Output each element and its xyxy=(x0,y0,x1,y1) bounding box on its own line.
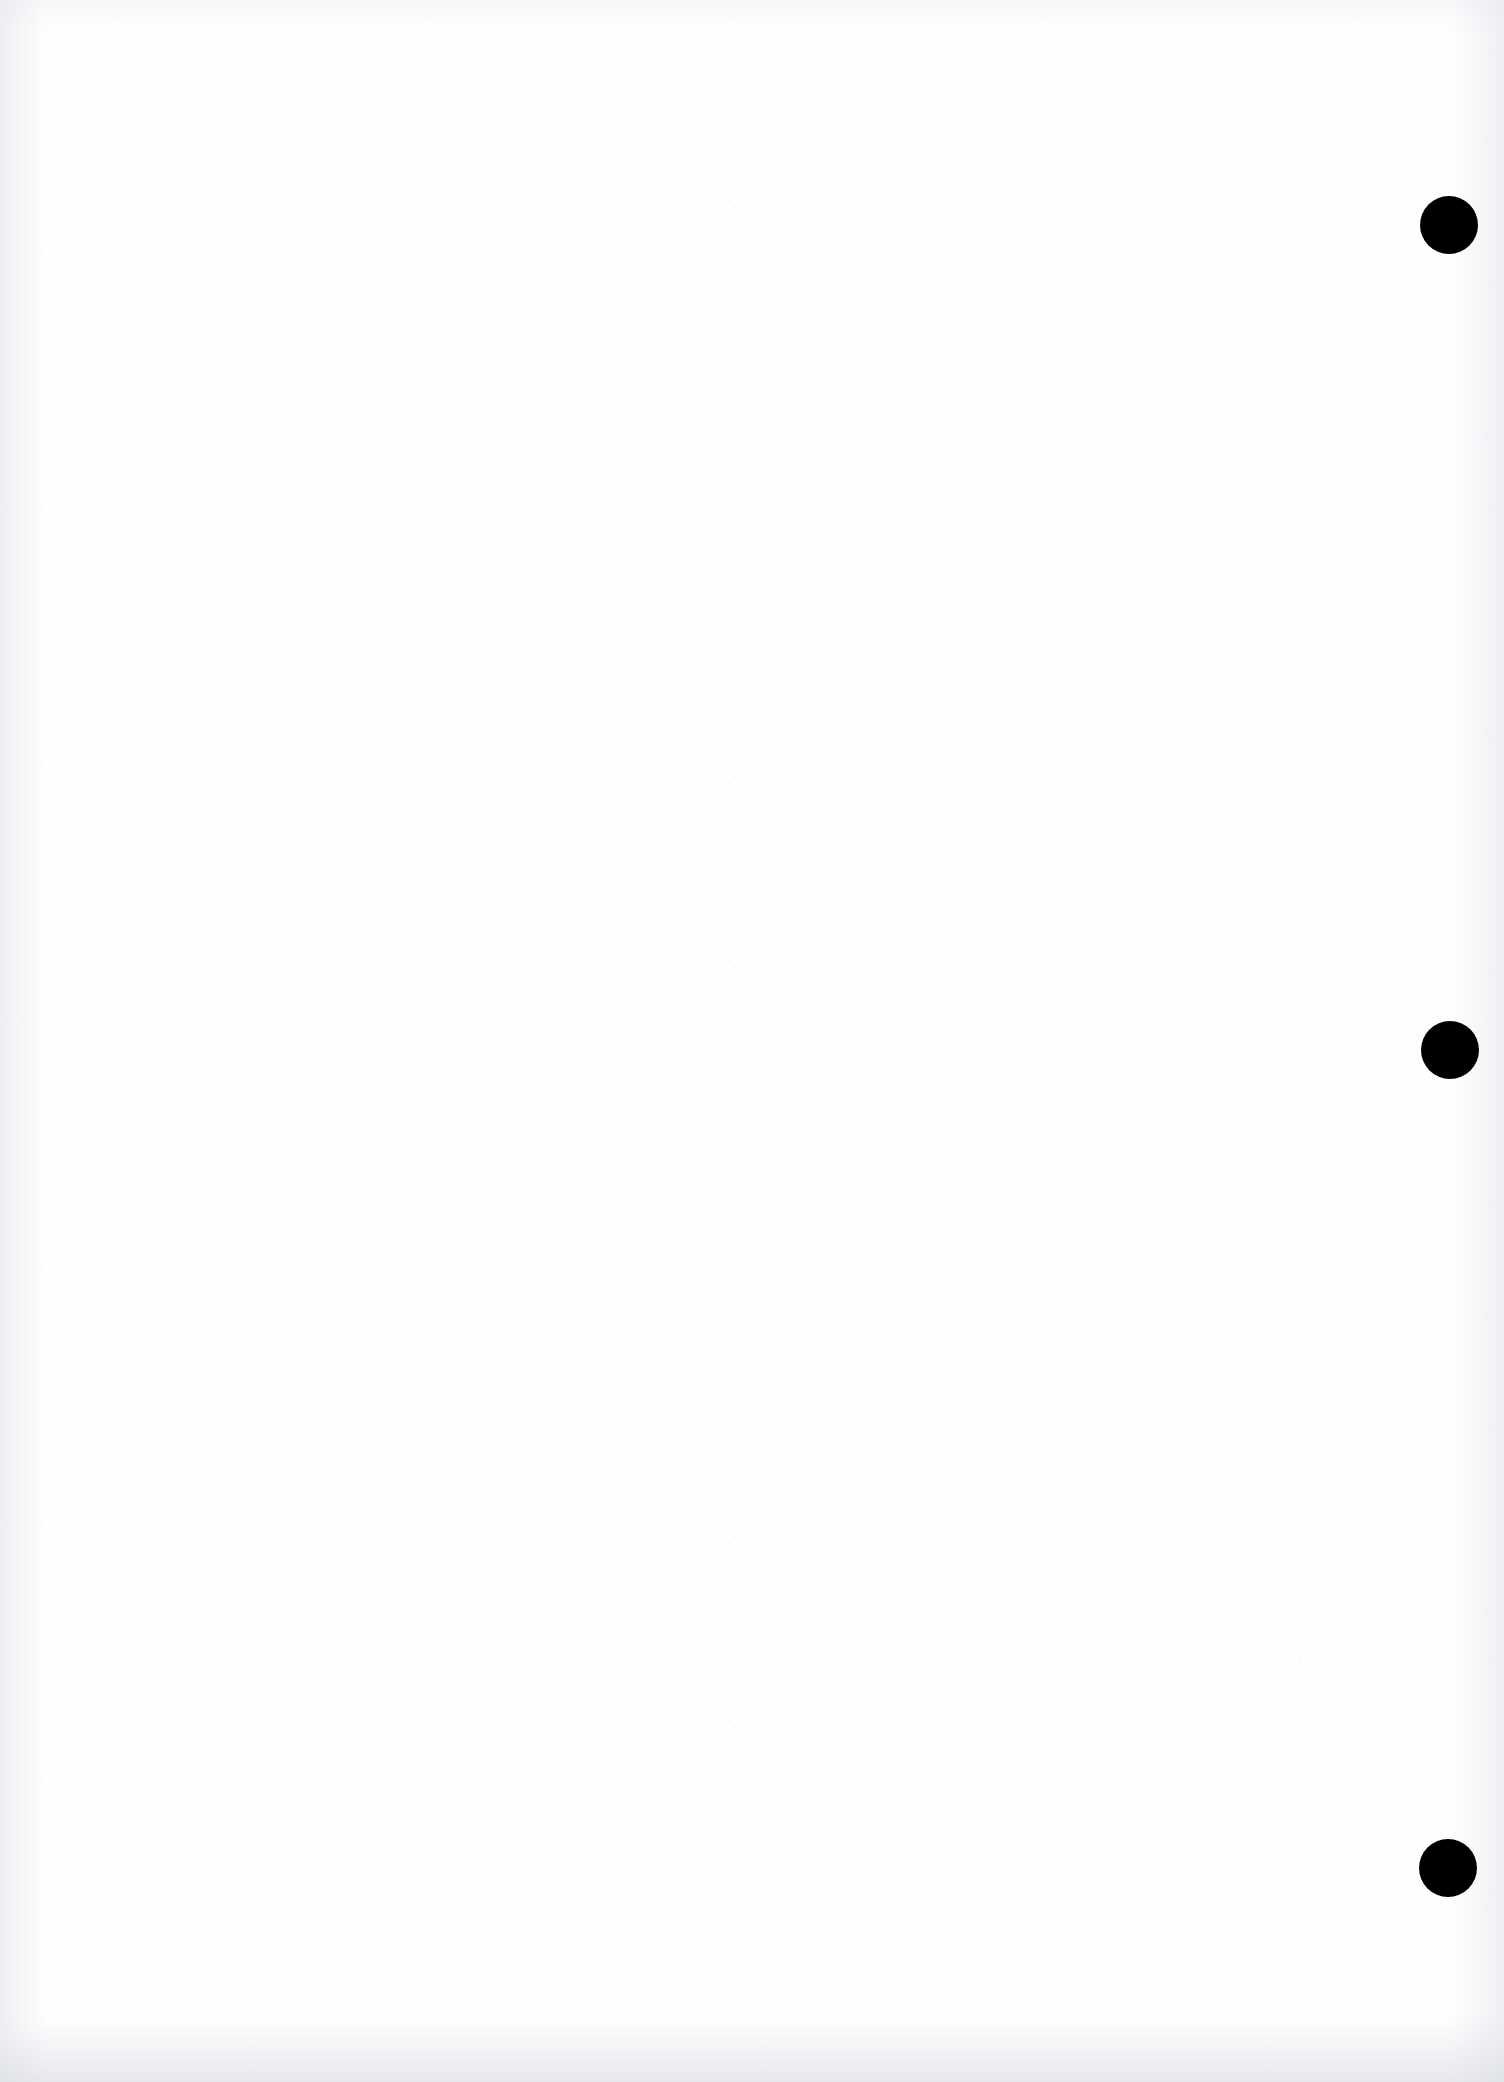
registration-mark-3 xyxy=(1419,1839,1477,1897)
registration-mark-2 xyxy=(1421,1021,1479,1079)
registration-mark-1 xyxy=(1420,196,1478,254)
scanned-page xyxy=(0,0,1504,2082)
page-body-text xyxy=(150,180,1300,1880)
